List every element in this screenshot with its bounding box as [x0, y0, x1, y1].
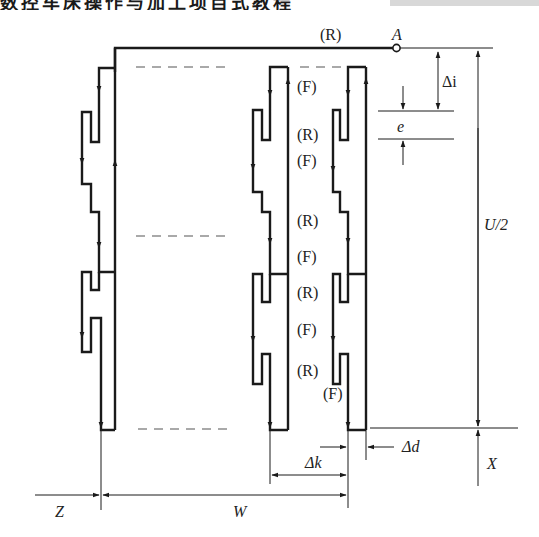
rapid-path-top [115, 48, 493, 72]
motion-label: (R) [297, 212, 318, 230]
u-half-label: U/2 [484, 216, 508, 233]
e-label: e [397, 118, 404, 135]
motion-label-last-f: (F) [323, 385, 343, 403]
g76-threading-cycle-diagram: A (R) [0, 0, 539, 537]
motion-label: (R) [297, 284, 318, 302]
thread-path-middle [253, 67, 288, 430]
delta-d-label: Δd [401, 438, 420, 455]
motion-label: (F) [297, 78, 317, 96]
dimension-u-half [370, 51, 518, 428]
thread-path-right [333, 67, 366, 430]
start-point-a-marker [393, 44, 400, 51]
motion-label: (F) [297, 248, 317, 266]
motion-label: (R) [297, 126, 318, 144]
dimension-e [378, 86, 454, 165]
z-label: Z [55, 503, 65, 520]
motion-label: (F) [297, 321, 317, 339]
motion-label: (F) [297, 152, 317, 170]
x-label: X [486, 455, 498, 472]
motion-labels: (F) (R) (F) (R) (F) (R) (F) (R) (F) [297, 78, 343, 403]
w-label: W [233, 503, 248, 520]
motion-label-top-r: (R) [320, 26, 341, 44]
delta-i-label: Δi [442, 73, 457, 90]
delta-k-label: Δk [304, 454, 322, 471]
point-a-label: A [391, 26, 402, 43]
motion-label: (R) [297, 362, 318, 380]
